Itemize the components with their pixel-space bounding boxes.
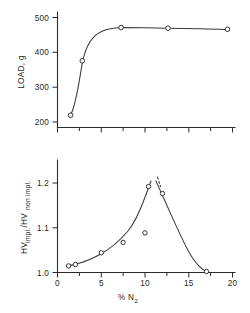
lower-y-tick-label-1-0: 1.0 — [37, 269, 49, 278]
lower-y-tick-label-1-2: 1.2 — [37, 179, 49, 188]
lower-y-tick-label-1-1: 1.1 — [37, 224, 49, 233]
lower-data-point — [99, 251, 103, 255]
lower-panel: 1.2 1.1 1.0 0 5 10 15 20 % N 2 HV impl. … — [20, 160, 237, 304]
upper-x-ticks — [58, 128, 233, 133]
lower-x-tick-label-20: 20 — [228, 279, 238, 288]
lower-x-tick-label-10: 10 — [140, 279, 150, 288]
upper-data-point — [68, 113, 73, 118]
lower-x-axis-title-n: N — [128, 293, 134, 302]
lower-y-axis-title-impl1: impl. — [24, 228, 32, 243]
dual-panel-plot: 500 400 300 200 LOAD, g — [0, 0, 250, 313]
lower-x-axis-title-subscript: 2 — [135, 297, 139, 304]
lower-data-point — [143, 231, 147, 235]
lower-x-tick-label-5: 5 — [99, 279, 104, 288]
lower-data-point — [121, 240, 125, 244]
upper-panel: 500 400 300 200 LOAD, g — [17, 12, 235, 133]
lower-y-axis-title-hv2: /HV — [20, 213, 29, 228]
upper-data-point — [166, 26, 171, 31]
upper-y-tick-label-500: 500 — [35, 14, 50, 23]
lower-x-tick-label-15: 15 — [184, 279, 194, 288]
lower-data-point — [160, 191, 164, 195]
lower-rising-curve — [69, 181, 152, 266]
lower-rising-markers — [66, 184, 150, 268]
lower-y-axis-title-nonimpl: non impl. — [24, 181, 32, 210]
figure-container: 500 400 300 200 LOAD, g — [0, 0, 250, 313]
upper-y-ticks — [53, 18, 58, 123]
lower-y-axis-title: HV impl. /HV non impl. — [20, 181, 32, 254]
lower-falling-markers — [160, 191, 208, 273]
lower-data-point — [146, 184, 150, 188]
lower-data-point — [66, 264, 70, 268]
lower-x-axis-title-percent: % — [118, 293, 126, 302]
upper-y-tick-label-300: 300 — [35, 83, 50, 92]
lower-data-point — [204, 269, 208, 273]
upper-y-tick-label-200: 200 — [35, 118, 50, 127]
upper-load-curve — [71, 28, 228, 116]
upper-data-point — [225, 27, 230, 32]
upper-y-tick-label-400: 400 — [35, 48, 50, 57]
upper-data-point — [80, 59, 85, 64]
lower-x-tick-label-0: 0 — [55, 279, 60, 288]
lower-data-point — [73, 262, 77, 266]
upper-data-point — [119, 25, 124, 30]
lower-y-ticks — [53, 183, 58, 273]
lower-x-axis-title: % N 2 — [118, 293, 139, 304]
upper-y-axis-title: LOAD, g — [17, 55, 26, 89]
